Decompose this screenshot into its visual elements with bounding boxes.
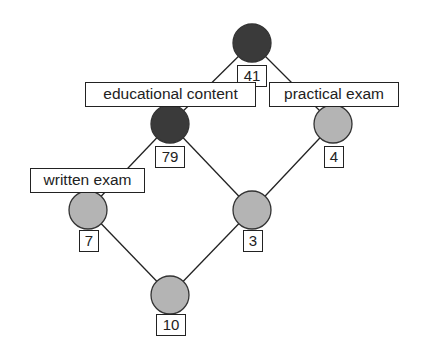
count-bottom: 10 [156, 314, 186, 336]
count-practical-exam: 4 [324, 146, 344, 168]
count-middle: 3 [243, 230, 263, 252]
count-written-exam: 7 [79, 230, 99, 252]
count-educational-content: 79 [155, 146, 185, 168]
label-practical-exam: practical exam [269, 82, 399, 107]
node-educational-content[interactable] [151, 105, 189, 143]
label-written-exam: written exam [30, 168, 145, 193]
node-bottom[interactable] [151, 276, 189, 314]
node-practical-exam[interactable] [314, 105, 352, 143]
label-educational-content: educational content [85, 82, 256, 107]
node-top[interactable] [233, 24, 271, 62]
node-middle[interactable] [233, 191, 271, 229]
node-written-exam[interactable] [69, 191, 107, 229]
